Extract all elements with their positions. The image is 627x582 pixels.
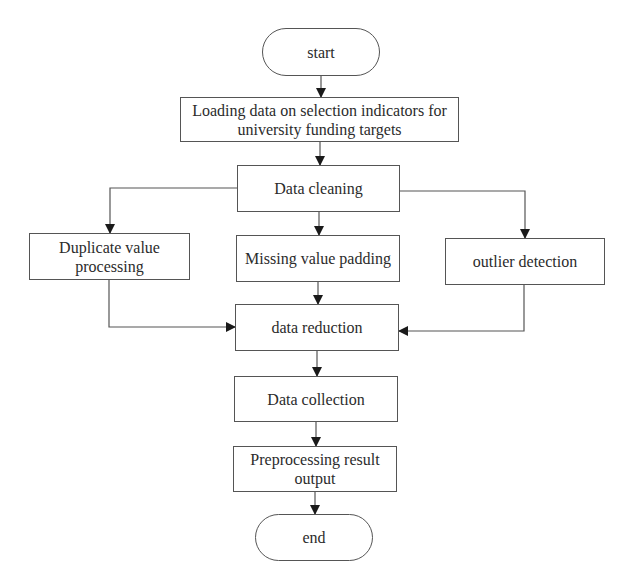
data-collection-step: Data collection [234, 376, 398, 422]
data-reduction-label: data reduction [271, 318, 362, 337]
outlier-detection-label: outlier detection [473, 252, 577, 271]
data-reduction-step: data reduction [235, 304, 399, 351]
connector-layer [0, 0, 627, 582]
data-collection-label: Data collection [267, 390, 364, 409]
edge-cleaning-duplicate [110, 188, 237, 233]
loading-data-label: Loading data on selection indicators for… [185, 101, 454, 139]
outlier-detection-step: outlier detection [445, 238, 605, 285]
edge-duplicate-reduction [109, 280, 235, 327]
data-cleaning-step: Data cleaning [237, 165, 400, 212]
edge-cleaning-outlier [400, 191, 525, 238]
edge-outlier-reduction [399, 285, 524, 331]
data-cleaning-label: Data cleaning [274, 179, 362, 198]
preprocessing-output-step: Preprocessing result output [233, 446, 397, 492]
end-label: end [302, 528, 325, 547]
end-terminal: end [255, 514, 373, 561]
duplicate-value-step: Duplicate value processing [29, 233, 190, 280]
loading-data-step: Loading data on selection indicators for… [180, 97, 459, 142]
start-label: start [307, 43, 335, 62]
duplicate-value-label: Duplicate value processing [48, 238, 171, 276]
missing-value-step: Missing value padding [236, 235, 400, 282]
start-terminal: start [262, 28, 380, 76]
missing-value-label: Missing value padding [245, 249, 391, 268]
preprocessing-output-label: Preprocessing result output [238, 450, 392, 488]
